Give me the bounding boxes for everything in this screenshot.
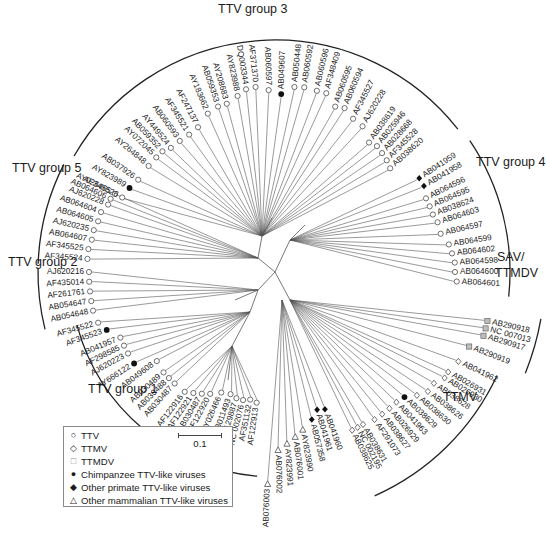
open-diamond-icon: [350, 427, 355, 433]
terminal-branch: [290, 240, 449, 254]
open-circle-icon: [446, 242, 451, 247]
terminal-branch: [262, 145, 367, 236]
terminal-branch: [290, 300, 373, 417]
taxon-label: AF435014: [46, 277, 85, 288]
open-diamond-icon: [372, 416, 377, 422]
terminal-branch: [290, 240, 454, 281]
open-circle-icon: [166, 375, 171, 380]
group-label-ttv-group-3: TTV group 3: [218, 2, 287, 16]
group-label-ttv-group-5: TTV group 5: [12, 161, 81, 175]
terminal-branch: [101, 312, 250, 322]
filled-circle-icon: ●: [68, 468, 79, 481]
open-circle-icon: [87, 279, 92, 284]
open-triangle-icon: △: [68, 494, 79, 507]
open-diamond-icon: [360, 421, 365, 427]
terminal-branch: [187, 346, 232, 389]
branch: [258, 236, 262, 258]
open-circle-icon: [87, 289, 92, 294]
filled-diamond-icon: [421, 183, 427, 189]
terminal-branch: [191, 137, 262, 236]
open-circle-icon: [266, 88, 271, 93]
open-circle-icon: [205, 111, 210, 116]
terminal-branch: [290, 300, 415, 393]
taxon-label: AB064598: [459, 255, 498, 266]
terminal-branch: [219, 109, 262, 236]
open-diamond-icon: [431, 380, 436, 386]
filled-diamond-icon: [314, 407, 320, 413]
terminal-branch: [247, 92, 262, 236]
open-triangle-icon: [300, 426, 306, 432]
terminal-branch: [94, 290, 258, 301]
filled-diamond-icon: [416, 175, 422, 181]
open-triangle-icon: [292, 434, 298, 440]
filled-circle-icon: [278, 91, 284, 97]
legend: ○ TTV ◇ TTMV □ TTMDV ● Chimpanzee TTV-li…: [63, 426, 233, 507]
terminal-branch: [123, 312, 250, 336]
taxon-label: AB064600: [460, 267, 499, 276]
open-circle-icon: [96, 219, 101, 224]
taxon-label: AB290919: [472, 344, 511, 366]
branch: [258, 272, 275, 290]
open-circle-icon: [324, 91, 329, 96]
terminal-branch: [223, 346, 232, 390]
open-circle-icon: [360, 124, 365, 129]
open-diamond-icon: [394, 399, 399, 405]
terminal-branch: [290, 300, 484, 320]
open-circle-icon: [154, 358, 159, 363]
open-triangle-icon: [284, 440, 290, 446]
open-circle-icon: [243, 87, 248, 92]
open-circle-icon: [374, 144, 379, 149]
filled-circle-icon: [402, 394, 408, 400]
legend-item-ttmdv: □ TTMDV: [68, 455, 228, 468]
open-circle-icon: [136, 177, 141, 182]
filled-diamond-icon: [309, 416, 315, 422]
grey-square-icon: [467, 344, 472, 349]
group-label-sav-ttmdv-line2: TTMDV: [495, 266, 538, 280]
terminal-branch: [290, 300, 456, 360]
taxon-label: AY823991: [283, 448, 295, 487]
open-circle-icon: [452, 260, 457, 265]
open-circle-icon: [314, 88, 319, 93]
scale-bar-label: 0.1: [178, 437, 222, 450]
open-circle-icon: [118, 335, 123, 340]
open-diamond-icon: [442, 375, 447, 381]
scale-bar-line: [178, 435, 222, 436]
open-circle-icon: [449, 251, 454, 256]
open-circle-icon: [121, 343, 126, 348]
terminal-branch: [165, 154, 262, 236]
terminal-branch: [209, 116, 262, 236]
open-circle-icon: [160, 149, 165, 154]
open-circle-icon: [89, 237, 94, 242]
filled-circle-icon: [131, 361, 137, 367]
open-circle-icon: [96, 320, 101, 325]
open-circle-icon: [195, 125, 200, 130]
branch: [275, 240, 290, 272]
terminal-branch: [232, 346, 257, 400]
open-circle-icon: [215, 104, 220, 109]
open-circle-icon: [219, 390, 224, 395]
branch: [258, 258, 275, 272]
terminal-branch: [93, 290, 258, 291]
terminal-branch: [177, 312, 250, 381]
grey-square-icon: [481, 333, 486, 338]
open-circle-icon: [452, 269, 457, 274]
open-circle-icon: [161, 370, 166, 375]
open-diamond-icon: [380, 411, 385, 417]
group-label-ttv-group-4: TTV group 4: [476, 155, 545, 169]
open-circle-icon: [234, 396, 239, 401]
scale-bar: 0.1: [178, 435, 222, 450]
terminal-branch: [141, 181, 262, 236]
open-circle-icon: [106, 202, 111, 207]
open-circle-icon: [199, 391, 204, 396]
terminal-branch: [173, 150, 262, 236]
terminal-branch: [290, 300, 431, 382]
open-circle-icon: [177, 138, 182, 143]
open-circle-icon: [342, 106, 347, 111]
open-circle-icon: [366, 140, 371, 145]
open-circle-icon: [248, 397, 253, 402]
terminal-branch: [92, 282, 258, 290]
terminal-branch: [290, 300, 394, 400]
grey-square-icon: [485, 318, 490, 323]
terminal-branch: [290, 300, 481, 335]
open-circle-icon: [427, 204, 432, 209]
